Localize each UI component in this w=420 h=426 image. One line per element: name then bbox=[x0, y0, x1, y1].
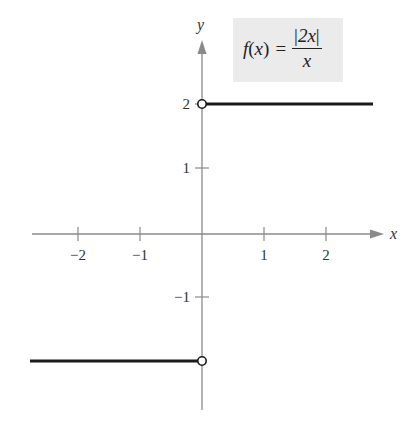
formula-lhs: f(x) bbox=[243, 38, 269, 60]
x-tick-label-2: 2 bbox=[322, 247, 330, 263]
x-tick-label-neg1: −1 bbox=[132, 247, 148, 263]
open-circle-icon bbox=[198, 100, 206, 108]
open-circle-icon bbox=[198, 357, 206, 365]
y-axis-arrow-icon bbox=[198, 40, 207, 54]
y-tick-label-neg1: −1 bbox=[174, 289, 190, 305]
x-tick-label-1: 1 bbox=[260, 247, 268, 263]
formula-paren-close: ) bbox=[263, 38, 269, 59]
formula-fraction: |2x| x bbox=[292, 24, 322, 73]
y-tick-label-1: 1 bbox=[183, 160, 191, 176]
formula-numerator-body: 2x bbox=[298, 25, 316, 46]
formula-numerator: |2x| bbox=[292, 24, 322, 49]
x-axis-label: x bbox=[389, 225, 397, 242]
abs-bar-right: | bbox=[316, 25, 320, 46]
x-axis-arrow-icon bbox=[370, 230, 384, 239]
x-tick-label-neg2: −2 bbox=[70, 247, 86, 263]
y-axis-label: y bbox=[195, 16, 205, 34]
formula-equals: = bbox=[275, 38, 286, 60]
graph: x y −2 −1 1 2 2 1 −1 bbox=[0, 0, 420, 426]
function-formula: f(x) = |2x| x bbox=[243, 24, 322, 73]
formula-x: x bbox=[255, 38, 263, 59]
y-tick-label-2: 2 bbox=[183, 96, 191, 112]
formula-denominator: x bbox=[303, 49, 311, 73]
